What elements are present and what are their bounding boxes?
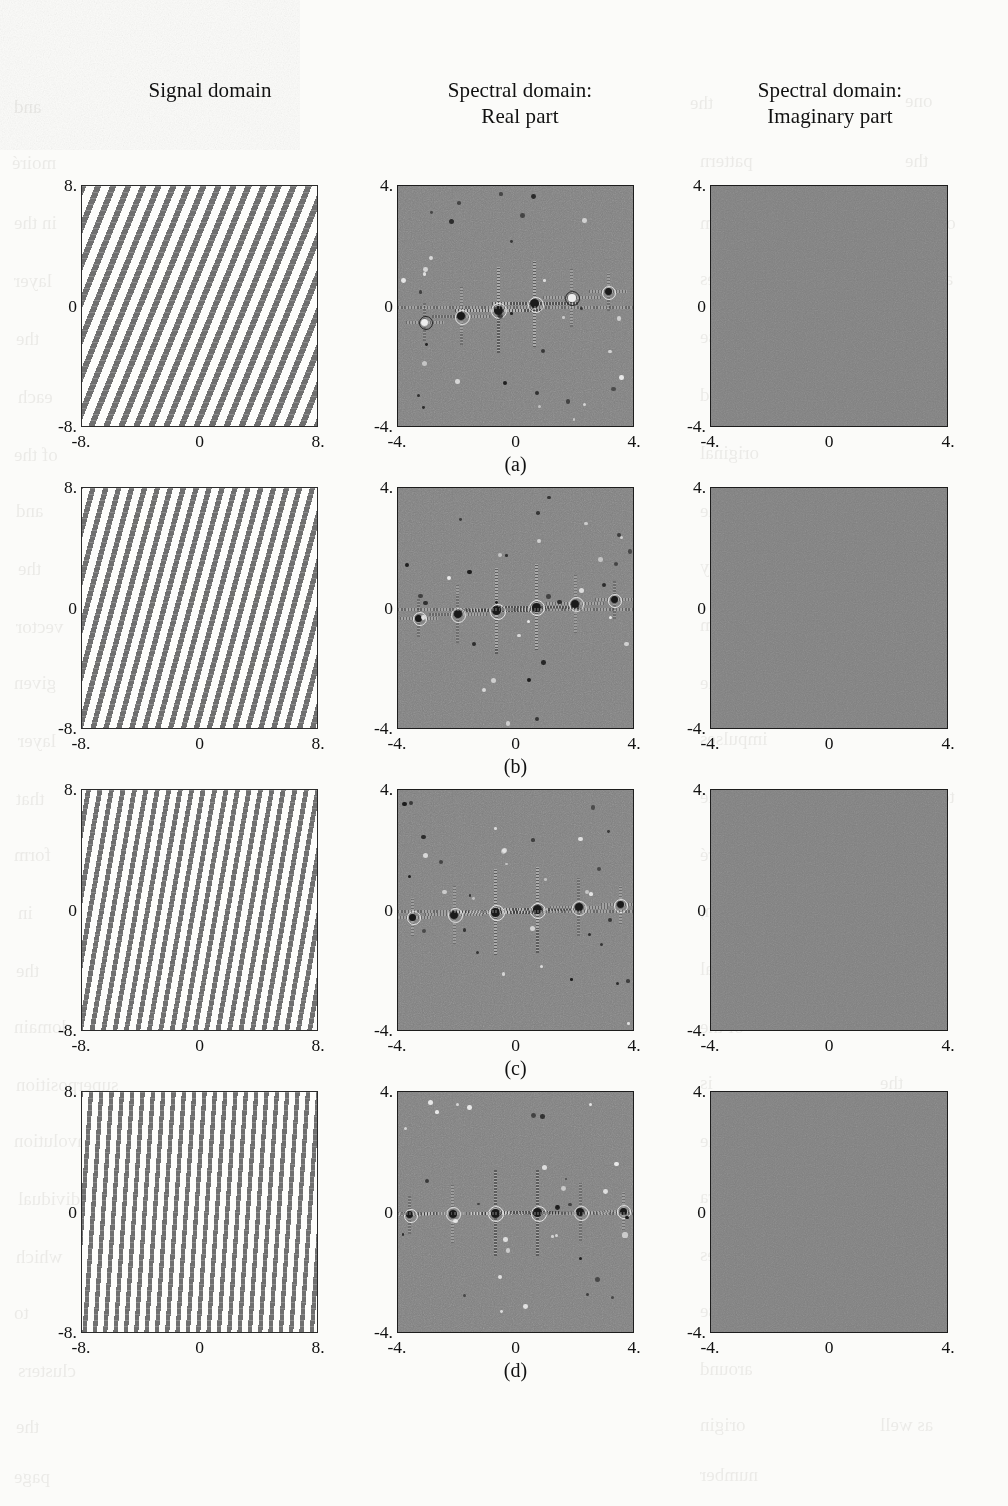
spectral-speckle — [499, 192, 502, 195]
y-axis-label-mid: 0 — [351, 598, 393, 619]
x-axis-label-left: -4. — [688, 733, 732, 754]
ghost-text: as well — [880, 1414, 933, 1436]
plot-frame — [710, 487, 948, 729]
spectral-speckle — [582, 218, 587, 223]
spectral-speckle — [544, 878, 547, 881]
y-axis-label-mid: 0 — [351, 1202, 393, 1223]
spectral-noise — [711, 186, 947, 426]
spectral-imaginary-plot — [710, 185, 948, 427]
spectral-imaginary-image — [711, 186, 947, 426]
spectral-speckle — [531, 194, 536, 199]
spectral-noise — [711, 488, 947, 728]
spectral-speckle — [425, 343, 428, 346]
spectral-speckle — [418, 594, 422, 598]
spectral-speckle — [536, 511, 539, 514]
spectral-speckle — [566, 399, 571, 404]
subfigure-caption: (d) — [357, 1359, 674, 1382]
x-axis-label-mid: 0 — [494, 1035, 538, 1056]
spectral-speckle — [520, 213, 525, 218]
origin-axis-ripple — [398, 1212, 633, 1215]
plot-frame — [710, 185, 948, 427]
y-axis-label-top: 4. — [664, 1081, 706, 1102]
plot-frame — [397, 185, 634, 427]
ghost-text: number — [700, 1464, 758, 1486]
grating-image — [82, 186, 317, 426]
spectral-speckle — [409, 801, 413, 805]
x-axis-label-right: 4. — [926, 1337, 970, 1358]
spectral-speckle — [561, 1186, 566, 1191]
ghost-text: form — [14, 844, 51, 866]
y-axis-label-top: 4. — [351, 175, 393, 196]
spectral-speckle — [546, 594, 551, 599]
spectral-speckle — [624, 642, 628, 646]
spectral-speckle — [500, 1310, 503, 1313]
column-header-signal-domain: Signal domain — [40, 78, 380, 104]
ghost-text: page — [14, 1466, 50, 1488]
spectral-speckle — [538, 405, 541, 408]
ghost-text: the — [905, 150, 928, 172]
ghost-text: in — [18, 902, 33, 924]
raster-staircase — [82, 790, 317, 1030]
spectral-speckle — [463, 928, 466, 931]
ghost-text: origin — [700, 1414, 745, 1436]
spectral-speckle — [540, 1114, 545, 1119]
spectral-speckle — [498, 1275, 502, 1279]
spectral-speckle — [523, 1304, 528, 1309]
grating-image — [82, 1092, 317, 1332]
spectral-speckle — [455, 379, 459, 383]
plot-frame — [397, 1091, 634, 1333]
ghost-text: clusters — [18, 1360, 76, 1382]
x-axis-label-mid: 0 — [178, 1035, 222, 1056]
plot-frame — [81, 1091, 318, 1333]
spectral-speckle — [579, 588, 584, 593]
signal-domain-plot — [81, 1091, 318, 1333]
spectral-speckle — [430, 211, 433, 214]
x-axis-label-right: 8. — [296, 1035, 340, 1056]
ghost-text: vector — [16, 616, 63, 638]
x-axis-label-left: -8. — [59, 1337, 103, 1358]
spectral-speckle — [535, 717, 539, 721]
ghost-text: in the — [14, 212, 57, 234]
ghost-text: which — [16, 1246, 62, 1268]
y-axis-label-mid: 0 — [664, 296, 706, 317]
spectral-imaginary-plot — [710, 487, 948, 729]
spectral-speckle — [402, 1233, 405, 1236]
x-axis-label-mid: 0 — [494, 1337, 538, 1358]
plot-frame — [81, 789, 318, 1031]
raster-staircase — [82, 186, 317, 426]
x-axis-label-left: -4. — [688, 1337, 732, 1358]
y-axis-label-top: 4. — [351, 477, 393, 498]
spectral-speckle — [421, 835, 426, 840]
spectral-speckle — [423, 267, 428, 272]
x-axis-label-left: -4. — [688, 431, 732, 452]
signal-domain-plot — [81, 789, 318, 1031]
spectral-speckle — [423, 853, 428, 858]
spectral-real-image — [398, 1092, 633, 1332]
spectral-speckle — [421, 615, 426, 620]
spectral-real-plot — [397, 185, 634, 427]
plot-frame — [710, 789, 948, 1031]
spectral-speckle — [447, 576, 451, 580]
x-axis-label-right: 4. — [612, 733, 656, 754]
ghost-text: to — [14, 1302, 29, 1324]
spectral-speckle — [459, 518, 462, 521]
spectral-speckle — [551, 1235, 554, 1238]
spectral-speckle — [428, 1100, 433, 1105]
column-header-line1: Spectral domain: — [680, 78, 980, 104]
x-axis-label-mid: 0 — [494, 431, 538, 452]
x-axis-label-left: -8. — [59, 733, 103, 754]
ghost-text: pattern — [700, 150, 753, 172]
spectral-speckle — [506, 721, 510, 725]
y-axis-label-top: 8. — [35, 779, 77, 800]
subfigure-caption: (a) — [357, 453, 674, 476]
spectral-speckle — [476, 951, 479, 954]
origin-axis-ripple — [398, 306, 633, 309]
spectral-real-image — [398, 186, 633, 426]
x-axis-label-left: -4. — [375, 431, 419, 452]
spectral-speckle — [531, 1113, 536, 1118]
y-axis-label-mid: 0 — [351, 296, 393, 317]
spectral-speckle — [535, 391, 539, 395]
spectral-speckle — [435, 1110, 439, 1114]
column-header-line1: Signal domain — [40, 78, 380, 104]
x-axis-label-mid: 0 — [178, 1337, 222, 1358]
